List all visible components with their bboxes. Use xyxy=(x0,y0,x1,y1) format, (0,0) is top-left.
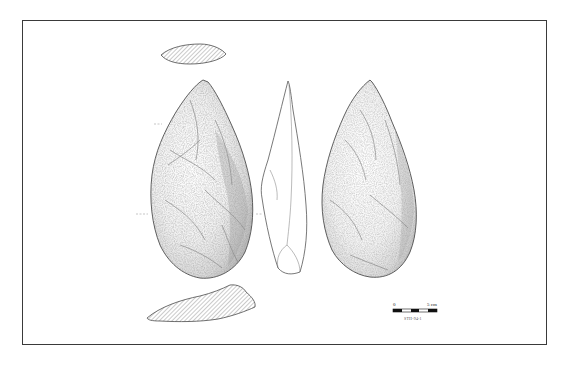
scale-bar xyxy=(393,309,437,312)
handaxe-illustration xyxy=(0,0,569,365)
dorsal-face xyxy=(136,80,262,278)
lateral-profile xyxy=(261,81,307,274)
bottom-cross-section xyxy=(147,285,255,322)
ventral-face xyxy=(322,80,416,277)
scale-start-label: 0 xyxy=(393,302,396,307)
scale-end-label: 5 cm xyxy=(427,302,437,307)
top-cross-section xyxy=(161,44,226,64)
specimen-label: STH-94-1 xyxy=(404,316,422,321)
